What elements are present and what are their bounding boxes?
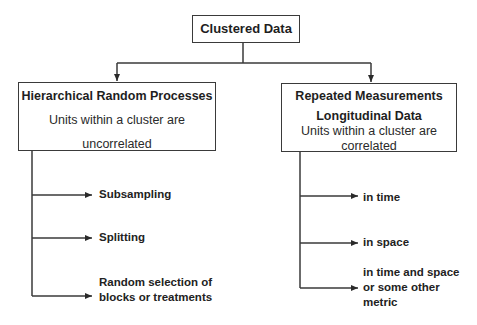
leaf-in-space: in space <box>363 235 409 250</box>
node-description-line: correlated <box>282 139 456 154</box>
node-description-line: Units within a cluster are <box>282 124 456 139</box>
leaf-splitting: Splitting <box>99 230 145 245</box>
node-title-line: Longitudinal Data <box>282 109 456 124</box>
leaf-subsampling: Subsampling <box>99 187 171 202</box>
node-title-line: Repeated Measurements <box>282 89 456 104</box>
node-title: Hierarchical Random Processes <box>19 89 215 104</box>
leaf-label-line: blocks or treatments <box>99 291 212 303</box>
leaf-label-line: or some other <box>363 281 440 293</box>
root-node-label: Clustered Data <box>200 21 292 36</box>
leaf-in-time-and-space: in time and space or some other metric <box>363 265 460 310</box>
leaf-label-line: Random selection of <box>99 276 212 288</box>
leaf-in-time: in time <box>363 190 400 205</box>
leaf-label: in time <box>363 191 400 203</box>
leaf-label-line: in time and space <box>363 266 460 278</box>
node-description-line: Units within a cluster are <box>19 113 215 128</box>
root-node: Clustered Data <box>192 15 300 43</box>
leaf-label: in space <box>363 236 409 248</box>
leaf-label: Splitting <box>99 231 145 243</box>
leaf-label-line: metric <box>363 296 398 308</box>
hierarchical-random-processes-node: Hierarchical Random Processes Units with… <box>18 82 216 151</box>
leaf-random-selection: Random selection of blocks or treatments <box>99 275 212 305</box>
leaf-label: Subsampling <box>99 188 171 200</box>
node-description-line: uncorrelated <box>19 137 215 152</box>
repeated-measurements-node: Repeated Measurements Longitudinal Data … <box>281 83 457 152</box>
